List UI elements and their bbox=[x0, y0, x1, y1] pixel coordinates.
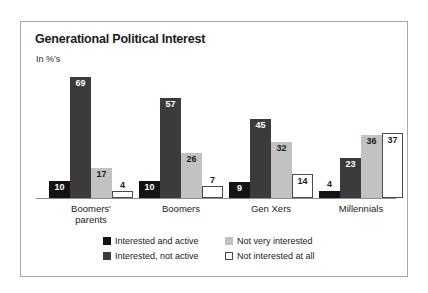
y-axis-unit-label: In %'s bbox=[36, 54, 60, 64]
chart-legend: Interested and activeNot very interested… bbox=[103, 236, 353, 266]
legend-swatch-icon bbox=[225, 237, 233, 245]
bar-value-label: 14 bbox=[293, 176, 312, 186]
legend-item[interactable]: Not interested at all bbox=[225, 251, 315, 261]
bar-value-label: 45 bbox=[250, 120, 271, 130]
legend-label: Interested, not active bbox=[115, 251, 199, 261]
bar-value-label: 17 bbox=[91, 169, 112, 179]
bar-group: 9453214 bbox=[229, 67, 313, 198]
legend-swatch-icon bbox=[103, 237, 111, 245]
legend-swatch-icon bbox=[103, 252, 111, 260]
x-axis-baseline bbox=[36, 198, 396, 199]
bar-group: 1069174 bbox=[49, 67, 133, 198]
bar-group: 4233637 bbox=[319, 67, 403, 198]
x-axis-category-labels: Boomers' parentsBoomersGen XersMillennia… bbox=[36, 203, 396, 233]
bar: 10 bbox=[139, 181, 160, 198]
bar: 45 bbox=[250, 119, 271, 198]
chart-screenshot: Generational Political Interest In %'s 1… bbox=[0, 0, 428, 293]
bar-group: 1057267 bbox=[139, 67, 223, 198]
plot-area: 1069174105726794532144233637 bbox=[36, 67, 394, 198]
bar: 9 bbox=[229, 182, 250, 198]
bar-value-label: 9 bbox=[229, 183, 250, 193]
bar-value-label: 10 bbox=[139, 182, 160, 192]
legend-label: Not interested at all bbox=[237, 251, 315, 261]
legend-row: Interested, not activeNot interested at … bbox=[103, 251, 353, 261]
bar: 10 bbox=[49, 181, 70, 198]
bar: 17 bbox=[91, 168, 112, 198]
bar: 7 bbox=[202, 186, 223, 198]
bar: 14 bbox=[292, 174, 313, 198]
bar-value-label: 23 bbox=[340, 159, 361, 169]
legend-label: Not very interested bbox=[237, 236, 313, 246]
bar-value-label: 69 bbox=[70, 78, 91, 88]
bar-value-label: 4 bbox=[113, 180, 132, 190]
legend-item[interactable]: Interested, not active bbox=[103, 251, 225, 261]
bar-value-label: 4 bbox=[319, 179, 340, 189]
bar: 36 bbox=[361, 135, 382, 198]
bar: 57 bbox=[160, 98, 181, 198]
legend-swatch-icon bbox=[225, 252, 233, 260]
bar: 4 bbox=[319, 191, 340, 198]
bar-value-label: 37 bbox=[383, 135, 402, 145]
bar-value-label: 26 bbox=[181, 154, 202, 164]
chart-panel: Generational Political Interest In %'s 1… bbox=[20, 21, 408, 277]
bar-value-label: 32 bbox=[271, 143, 292, 153]
bar-value-label: 7 bbox=[203, 175, 222, 185]
legend-label: Interested and active bbox=[115, 236, 199, 246]
chart-title: Generational Political Interest bbox=[35, 32, 205, 46]
bar: 32 bbox=[271, 142, 292, 198]
bar: 4 bbox=[112, 191, 133, 198]
bar-value-label: 10 bbox=[49, 182, 70, 192]
bar: 69 bbox=[70, 77, 91, 198]
bar: 23 bbox=[340, 158, 361, 198]
legend-item[interactable]: Interested and active bbox=[103, 236, 225, 246]
legend-item[interactable]: Not very interested bbox=[225, 236, 313, 246]
bar: 26 bbox=[181, 153, 202, 198]
legend-row: Interested and activeNot very interested bbox=[103, 236, 353, 246]
bar-value-label: 36 bbox=[361, 136, 382, 146]
category-label: Millennials bbox=[307, 203, 415, 214]
bar: 37 bbox=[382, 133, 403, 198]
bar-value-label: 57 bbox=[160, 99, 181, 109]
